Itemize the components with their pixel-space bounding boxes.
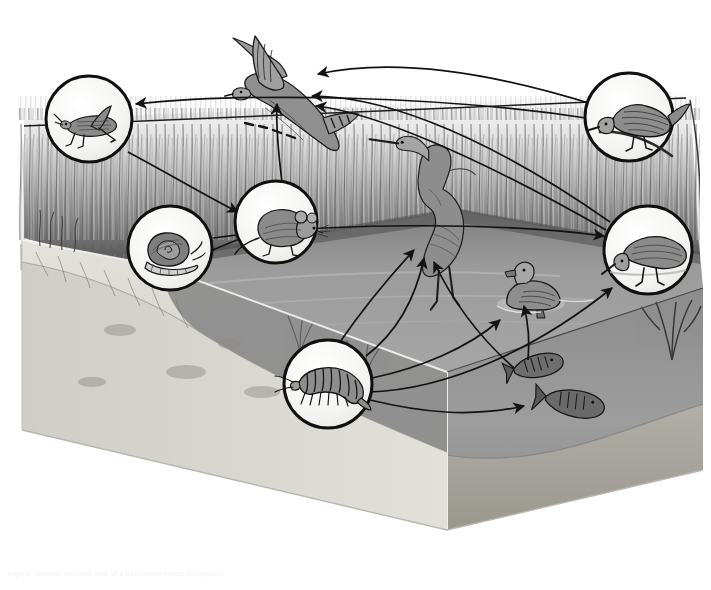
block-diagram [18,92,703,540]
figure-canvas: Figure. Generalized food web of a freshw… [0,0,711,590]
callout-sandpiper [602,206,692,294]
callout-grasshopper [46,76,132,162]
wetland-food-web-illustration [0,0,711,590]
figure-caption: Figure. Generalized food web of a freshw… [8,570,408,577]
callout-snail [128,206,212,290]
